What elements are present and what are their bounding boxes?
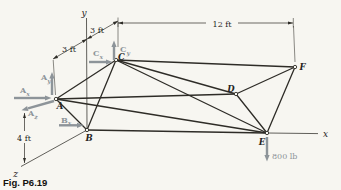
dimension-4ft: 4 ft [12, 113, 37, 163]
figure-caption: Fig. P6.19 [3, 177, 47, 188]
reaction-label-bx: Bx [61, 115, 72, 127]
right-arrow-icon [45, 95, 52, 100]
dimension-3ft-chain: 3 ft 3 ft [53, 21, 118, 59]
arrowhead [113, 21, 118, 25]
reaction-label-ax: Ax [19, 85, 30, 97]
x-axis-line [267, 133, 318, 134]
y-axis-line [87, 18, 88, 130]
dim-label-3ft-front: 3 ft [62, 45, 77, 54]
joint-f [293, 65, 296, 68]
reaction-arrow-ay [49, 72, 54, 95]
member-cf [116, 60, 295, 67]
reaction-label-cx: Cx [93, 48, 103, 60]
reaction-arrow-ax [14, 95, 52, 100]
arrowhead [23, 158, 26, 163]
x-axis-label: x [323, 129, 328, 139]
member-ad [56, 94, 236, 99]
joint-label-c: C [118, 52, 125, 62]
extension-line-f [294, 26, 296, 62]
dim-label-3ft-back: 3 ft [90, 26, 105, 35]
dim-label-4ft: 4 ft [17, 134, 32, 143]
reaction-arrow-cy [111, 41, 116, 61]
member-be [87, 130, 267, 133]
dim-label-12ft: 12 ft [213, 20, 233, 29]
down-arrow-icon [264, 155, 269, 162]
arrowhead [87, 35, 92, 39]
arrowhead [23, 113, 26, 118]
arrowhead [288, 22, 293, 25]
truss-members [56, 60, 295, 133]
arrowhead [53, 55, 58, 59]
up-arrow-icon [111, 41, 116, 48]
joint-b [85, 128, 88, 131]
reaction-label-ay: Ay [40, 72, 51, 85]
truss-diagram: 3 ft 3 ft 12 ft 4 ft [0, 0, 341, 190]
load-label: 800 lb [272, 152, 298, 161]
joint-label-f: F [299, 62, 307, 72]
joint-e [265, 131, 268, 134]
reaction-label-az: Az [27, 108, 38, 120]
y-axis-label: y [80, 8, 87, 18]
member-df [236, 67, 295, 94]
joint-label-b: B [84, 133, 92, 143]
joint-pins [54, 58, 296, 134]
reaction-arrow-az [22, 101, 55, 111]
joint-label-a: A [56, 101, 64, 111]
figure-p6-19: 3 ft 3 ft 12 ft 4 ft [0, 0, 341, 190]
joint-d [234, 92, 237, 95]
joint-label-e: E [258, 137, 266, 147]
dimension-12ft: 12 ft [118, 20, 293, 29]
member-ef [267, 67, 295, 133]
arrowhead [118, 22, 123, 25]
member-de [236, 94, 267, 133]
member-ac [56, 60, 116, 99]
member-bc [87, 60, 116, 130]
joint-label-d: D [226, 84, 235, 94]
